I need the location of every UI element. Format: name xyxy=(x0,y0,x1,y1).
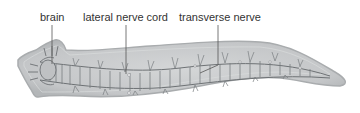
planarian-diagram: brain lateral nerve cord transverse nerv… xyxy=(0,0,360,113)
label-lateral-nerve-cord: lateral nerve cord xyxy=(83,11,168,23)
label-transverse-nerve: transverse nerve xyxy=(179,11,261,23)
label-brain: brain xyxy=(40,11,64,23)
